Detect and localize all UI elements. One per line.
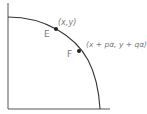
- point-f-coord-label: (x + pα, y + qα): [86, 40, 147, 49]
- point-e-dot: [54, 27, 58, 31]
- point-e-coord-label: (x,y): [58, 18, 76, 27]
- point-e-label: E: [44, 29, 50, 39]
- point-f-dot: [77, 49, 81, 53]
- point-f-label: F: [67, 49, 72, 59]
- curve: [8, 17, 100, 109]
- diagram-canvas: E (x,y) F (x + pα, y + qα): [0, 0, 147, 114]
